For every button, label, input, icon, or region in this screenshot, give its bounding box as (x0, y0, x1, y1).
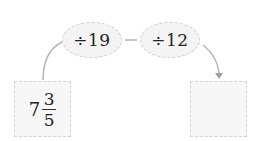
left-arc-line (43, 42, 62, 80)
fraction: 3 5 (42, 90, 56, 129)
operation-label-2: ÷12 (151, 30, 188, 50)
arrowhead-icon (215, 73, 223, 79)
mixed-number: 7 3 5 (29, 90, 56, 129)
right-arc-line (203, 45, 219, 74)
result-answer-box[interactable] (190, 81, 247, 137)
whole-part: 7 (29, 99, 40, 120)
operation-oval-2: ÷12 (140, 22, 200, 58)
operation-label-1: ÷19 (73, 30, 110, 50)
denominator: 5 (44, 111, 55, 129)
numerator: 3 (44, 90, 55, 108)
operation-oval-1: ÷19 (62, 22, 122, 58)
start-value-box: 7 3 5 (14, 81, 71, 137)
